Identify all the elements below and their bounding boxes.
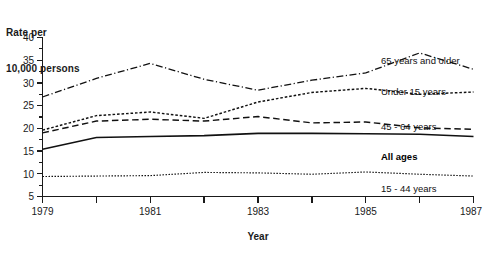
- x-axis-title: Year: [247, 231, 268, 242]
- y-tick-label-10: 10: [23, 169, 35, 180]
- y-tick-label-40: 40: [23, 32, 35, 43]
- series-label-15-44-years: 15 - 44 years: [381, 183, 437, 194]
- series-label-65-years-and-older: 65 years and older: [381, 55, 460, 66]
- y-tick-label-30: 30: [23, 78, 35, 89]
- series-label-all-ages: All ages: [381, 151, 417, 162]
- y-tick-label-20: 20: [23, 123, 35, 134]
- x-tick-label-1979: 1979: [31, 206, 54, 217]
- series-labels: 65 years and older Under 15 years 45 - 6…: [381, 55, 460, 194]
- y-tick-label-5: 5: [28, 191, 34, 202]
- y-tick-label-15: 15: [23, 146, 35, 157]
- series-label-45-64-years: 45 - 64 years: [381, 121, 437, 132]
- x-tick-label-1987: 1987: [460, 206, 483, 217]
- line-chart-plot: 40 35 30 25 20 15 10 5 1979 1981 1983 1: [0, 0, 490, 256]
- x-axis-ticks: [43, 197, 474, 204]
- x-axis-tick-labels: 1979 1981 1983 1985 1987: [31, 206, 482, 217]
- y-tick-label-25: 25: [23, 100, 35, 111]
- x-tick-label-1983: 1983: [247, 206, 270, 217]
- chart-container: Rate per 10,000 persons: [0, 0, 490, 256]
- series-line-all-ages: [43, 133, 474, 149]
- x-tick-label-1981: 1981: [139, 206, 162, 217]
- x-tick-label-1985: 1985: [355, 206, 378, 217]
- y-tick-label-35: 35: [23, 55, 35, 66]
- series-label-under-15-years: Under 15 years: [381, 86, 446, 97]
- series-line-15-44-years: [43, 172, 474, 177]
- y-axis-tick-labels: 40 35 30 25 20 15 10 5: [23, 32, 35, 202]
